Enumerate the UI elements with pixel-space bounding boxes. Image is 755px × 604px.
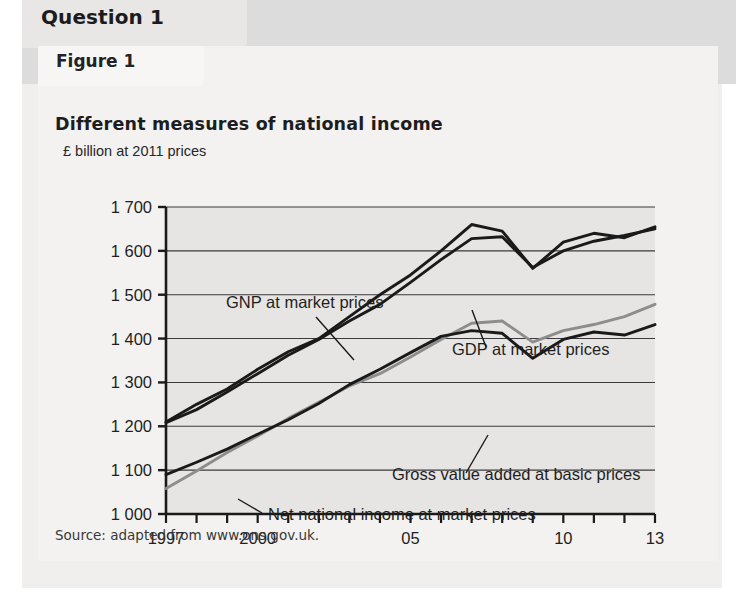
y-axis-tick-label: 1 700: [111, 198, 152, 216]
y-axis-tick-label: 1 000: [111, 505, 152, 523]
x-axis-tick-label: 10: [554, 529, 572, 547]
series-annotation-label: Net national income at market prices: [268, 505, 536, 523]
figure-card: Figure 1 Different measures of national …: [38, 46, 718, 561]
y-axis-tick-label: 1 600: [111, 242, 152, 260]
y-axis-tick-label: 1 500: [111, 286, 152, 304]
chart-plot-area: 1 0001 1001 2001 3001 4001 5001 6001 700…: [38, 46, 718, 561]
y-axis-tick-label: 1 100: [111, 461, 152, 479]
series-annotation-label: GNP at market prices: [226, 293, 383, 311]
line-chart: 1 0001 1001 2001 3001 4001 5001 6001 700…: [38, 46, 718, 561]
series-annotation-label: Gross value added at basic prices: [392, 465, 641, 483]
question-title: Question 1: [41, 5, 164, 29]
y-axis-tick-label: 1 400: [111, 330, 152, 348]
series-annotation-label: GDP at market prices: [452, 340, 609, 358]
source-note: Source: adapted from www.ons.gov.uk.: [55, 527, 319, 543]
x-axis-tick-label: 05: [401, 529, 419, 547]
y-axis-tick-label: 1 300: [111, 373, 152, 391]
x-axis-tick-label: 13: [646, 529, 664, 547]
screenshot-page: Question 1 Figure 1 Different measures o…: [0, 0, 755, 604]
y-axis-tick-label: 1 200: [111, 417, 152, 435]
